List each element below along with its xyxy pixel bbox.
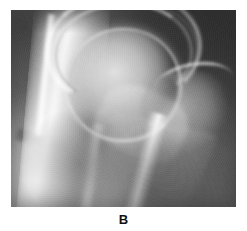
femoral-shaft-bone [79, 111, 218, 207]
medial-femoral-cortex [76, 124, 105, 207]
lateral-femoral-cortex [120, 112, 169, 207]
trochanteric-fossa-shadow [133, 70, 186, 131]
acetabular-roof-cortex [40, 10, 206, 115]
medial-notch-shadow [11, 10, 236, 207]
film-grain-overlay [11, 10, 236, 207]
film-vignette [11, 10, 236, 207]
lateral-soft-tissue-shadow [11, 10, 236, 207]
pelvic-inlet-shadow [11, 10, 236, 207]
ramus-seam [15, 128, 83, 156]
figure-panel: B [0, 0, 247, 231]
greater-trochanter-bone [140, 63, 236, 161]
femoral-neck-bone [87, 73, 196, 171]
femoral-head-bone [65, 28, 178, 138]
soft-tissue-field [11, 10, 236, 207]
ischium-ramus-bone [11, 115, 114, 207]
film-grain-overlay-fine [11, 10, 236, 207]
hip-radiograph-image [11, 10, 236, 207]
figure-panel-label: B [0, 212, 247, 227]
ilioischial-line [34, 14, 58, 137]
trochanter-cortical-edge [149, 56, 236, 113]
femoral-head-subchondral-rim [65, 28, 182, 142]
acetabular-secondary-arc [48, 10, 196, 111]
hip-joint-space [49, 10, 201, 113]
iliac-column-bone [15, 10, 110, 207]
